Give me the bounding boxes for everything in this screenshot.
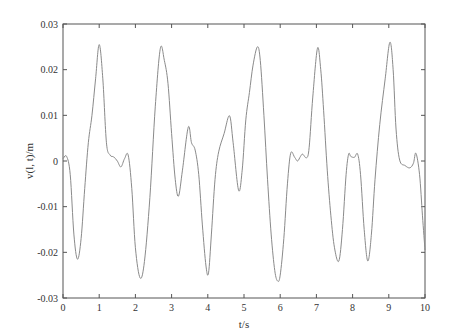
y-tick-label: 0 xyxy=(53,156,58,167)
x-tick-label: 7 xyxy=(314,302,319,313)
y-axis-label: v(l, t)/m xyxy=(23,143,36,179)
x-tick-label: 8 xyxy=(350,302,355,313)
x-tick-label: 0 xyxy=(61,302,66,313)
y-tick-labels: -0.03-0.02-0.0100.010.020.03 xyxy=(37,19,58,304)
x-tick-labels: 012345678910 xyxy=(61,302,431,313)
x-axis-label: t/s xyxy=(239,318,249,330)
chart-figure: 012345678910 -0.03-0.02-0.0100.010.020.0… xyxy=(0,0,449,336)
x-tick-label: 2 xyxy=(133,302,138,313)
x-tick-label: 4 xyxy=(205,302,210,313)
data-line xyxy=(63,42,425,281)
y-tick-label: 0.03 xyxy=(41,19,59,30)
y-tick-label: 0.01 xyxy=(41,110,59,121)
x-tick-label: 9 xyxy=(386,302,391,313)
y-tick-label: 0.02 xyxy=(41,64,59,75)
x-tick-label: 3 xyxy=(169,302,174,313)
x-tick-label: 6 xyxy=(278,302,283,313)
y-tick-label: -0.01 xyxy=(37,201,58,212)
y-tick-label: -0.02 xyxy=(37,247,58,258)
x-tick-label: 10 xyxy=(420,302,430,313)
y-tick-label: -0.03 xyxy=(37,293,58,304)
x-tick-label: 1 xyxy=(97,302,102,313)
x-tick-label: 5 xyxy=(242,302,247,313)
